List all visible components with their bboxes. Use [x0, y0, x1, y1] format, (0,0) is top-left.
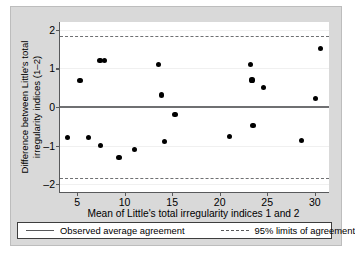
dashed-line-swatch-icon	[221, 230, 249, 231]
data-point	[132, 147, 137, 152]
x-axis-label: Mean of Little's total irregularity indi…	[59, 208, 328, 219]
y-axis-label: Difference between Little's total irregu…	[14, 22, 48, 192]
x-axis-tick-label: 20	[214, 197, 226, 208]
data-point	[249, 77, 254, 82]
data-point	[65, 135, 70, 140]
legend-item-label: Observed average agreement	[60, 226, 185, 235]
gridline	[60, 30, 329, 31]
data-point	[156, 62, 161, 67]
data-point	[162, 139, 167, 144]
data-point	[318, 46, 323, 51]
chart-legend: Observed average agreement 95% limits of…	[17, 222, 332, 239]
gridline	[60, 68, 329, 69]
y-axis-tick	[56, 107, 60, 108]
x-axis-tick-label: 30	[309, 197, 321, 208]
data-point	[250, 123, 255, 128]
legend-item-label: 95% limits of agreement	[255, 226, 355, 235]
legend-item-observed-average-agreement: Observed average agreement	[26, 226, 185, 235]
data-point	[248, 62, 253, 67]
data-point	[227, 134, 232, 139]
data-point	[172, 112, 177, 117]
plot-area: –2–1012 51015202530	[59, 22, 329, 193]
y-axis-tick-label: 0	[49, 102, 55, 113]
data-point	[102, 58, 107, 63]
observed-average-agreement	[60, 106, 329, 107]
data-point	[116, 155, 121, 160]
y-axis-tick	[56, 146, 60, 147]
y-axis-tick	[56, 30, 60, 31]
solid-line-swatch-icon	[26, 230, 54, 231]
y-axis-tick	[56, 184, 60, 185]
data-point	[98, 143, 103, 148]
lower-limit-of-agreement	[60, 178, 329, 179]
data-point	[77, 78, 82, 83]
x-axis-tick-label: 15	[166, 197, 178, 208]
data-point	[86, 135, 91, 140]
data-point	[299, 138, 304, 143]
y-axis-tick	[56, 68, 60, 69]
data-point	[313, 96, 318, 101]
data-point	[159, 92, 164, 97]
data-point	[261, 85, 266, 90]
x-axis-tick-label: 10	[119, 197, 131, 208]
x-axis-tick-label: 5	[74, 197, 80, 208]
gridline	[60, 184, 329, 185]
x-axis-tick-label: 25	[261, 197, 273, 208]
legend-item-limits-of-agreement: 95% limits of agreement	[221, 226, 355, 235]
y-axis-tick-label: 2	[49, 24, 55, 35]
y-axis-tick-label: 1	[49, 63, 55, 74]
upper-limit-of-agreement	[60, 36, 329, 37]
